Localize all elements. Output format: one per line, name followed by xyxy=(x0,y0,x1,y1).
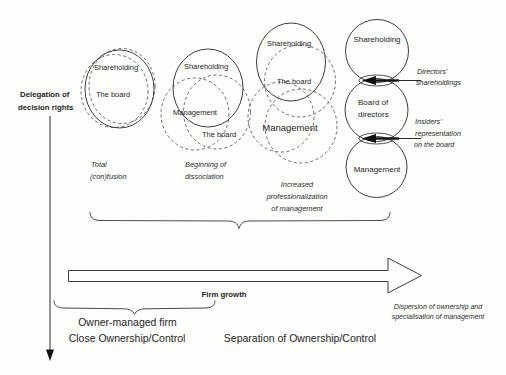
dispersion-label-line2: specialisation of management xyxy=(392,313,486,321)
close-ownership-label: Close Ownership/Control xyxy=(69,332,186,344)
c3-board-label: The board xyxy=(277,77,311,86)
cluster-beginning-dissociation: Shareholding Management The board Beginn… xyxy=(161,49,251,181)
c2-caption-line2: dissociation xyxy=(185,172,224,181)
c3-caption-line3: of management xyxy=(271,204,323,213)
directors-annotation-line2: shareholdings xyxy=(416,78,461,87)
c4-shareholding-label: Shareholding xyxy=(353,35,400,44)
c3-solid-circle xyxy=(257,23,326,101)
c2-shareholding-label: Shareholding xyxy=(184,62,228,71)
c1-dashed-circle-2 xyxy=(89,49,155,124)
diagram-canvas: Delegation of decision rights Shareholdi… xyxy=(0,0,506,375)
delegation-label-line1: Delegation of xyxy=(20,90,70,99)
delegation-axis-arrowhead-icon xyxy=(46,350,54,362)
c2-board-label: The board xyxy=(202,130,236,139)
insiders-annotation-line1: Insiders’ xyxy=(415,117,442,126)
clusters-brace xyxy=(90,212,390,229)
c1-caption-line2: (con)fusion xyxy=(90,172,127,181)
c4-shareholding-circle xyxy=(346,20,409,83)
directors-annotation-line1: Directors’ xyxy=(417,67,448,76)
firm-growth-label: Firm growth xyxy=(201,290,246,299)
owner-managed-firm-label: Owner-managed firm xyxy=(78,316,177,328)
c3-caption-line1: Increased xyxy=(281,180,314,189)
c3-shareholding-label: Shareholding xyxy=(267,39,311,48)
c1-caption-line1: Total xyxy=(91,160,107,169)
delegation-label-line2: decision rights xyxy=(18,103,74,112)
c4-board-label-line1: Board of xyxy=(358,98,389,107)
separation-ownership-label: Separation of Ownership/Control xyxy=(224,332,376,344)
c4-board-label-line2: directors xyxy=(358,110,389,119)
cluster-separated: Shareholding Board of directors Manageme… xyxy=(345,20,421,198)
governance-evolution-diagram: Delegation of decision rights Shareholdi… xyxy=(0,0,506,375)
insiders-annotation-line2: representation xyxy=(415,129,461,138)
c2-management-label: Management xyxy=(173,108,218,117)
c1-solid-circle xyxy=(85,50,154,128)
owner-managed-brace xyxy=(54,301,215,315)
c4-management-label: Management xyxy=(354,165,401,174)
c3-caption-line2: professionalization xyxy=(265,192,327,201)
c3-management-label: Management xyxy=(262,122,318,133)
c1-board-label: The board xyxy=(96,90,130,99)
firm-growth-arrow xyxy=(69,258,422,293)
c2-caption-line1: Beginning of xyxy=(185,160,227,169)
cluster-total-confusion: Shareholding The board Total (con)fusion xyxy=(81,49,155,182)
insiders-annotation-line3: on the board xyxy=(414,140,455,149)
cluster-increased-professionalization: Shareholding The board Management Increa… xyxy=(248,23,337,213)
dispersion-label-line1: Dispersion of ownership and xyxy=(394,303,483,311)
c1-shareholding-label: Shareholding xyxy=(94,63,138,72)
